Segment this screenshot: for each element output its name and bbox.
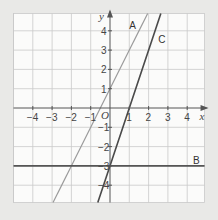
y-axis-label: y (98, 10, 104, 22)
x-tick-label: −4 (27, 112, 39, 123)
y-tick-label: 4 (101, 26, 107, 37)
line-label-b: B (193, 155, 200, 166)
x-tick-label: −3 (46, 112, 58, 123)
line-label-c: C (158, 34, 165, 45)
coordinate-graph: ABC−4−3−2−11234−4−3−2−11234xyO (0, 0, 218, 220)
y-tick-label: −2 (98, 142, 110, 153)
x-tick-label: −2 (65, 112, 77, 123)
y-tick-label: 3 (101, 45, 107, 56)
x-tick-label: 1 (126, 112, 132, 123)
y-tick-label: 1 (101, 84, 107, 95)
x-tick-label: 4 (184, 112, 190, 123)
x-tick-label: 3 (165, 112, 171, 123)
y-tick-label: 2 (101, 64, 107, 75)
x-tick-label: 2 (146, 112, 152, 123)
line-label-a: A (129, 20, 136, 31)
x-tick-label: −1 (85, 112, 97, 123)
y-tick-label: −1 (98, 122, 110, 133)
y-tick-label: −3 (98, 161, 110, 172)
origin-label: O (101, 109, 109, 121)
y-tick-label: −4 (98, 180, 110, 191)
x-axis-label: x (199, 110, 205, 122)
